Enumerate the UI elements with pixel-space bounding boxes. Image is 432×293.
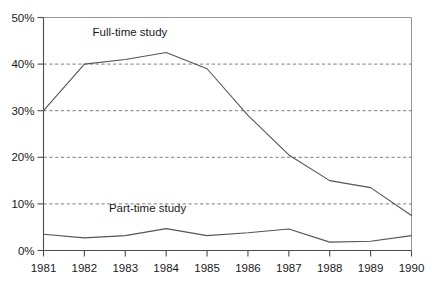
chart-frame bbox=[44, 18, 412, 251]
chart-canvas: 0%10%20%30%40%50% 1981198219831984198519… bbox=[0, 0, 432, 293]
gridlines bbox=[44, 64, 412, 204]
y-tick-label-0: 0% bbox=[18, 245, 35, 257]
y-tick-label-10: 10% bbox=[11, 198, 34, 210]
series-line-part-time-study bbox=[44, 229, 412, 243]
y-tick-label-50: 50% bbox=[11, 12, 34, 24]
series-line-full-time-study bbox=[44, 52, 412, 215]
x-tick-label-1981: 1981 bbox=[31, 262, 57, 274]
axes bbox=[44, 18, 412, 251]
x-tick-label-1986: 1986 bbox=[235, 262, 261, 274]
x-tick-label-1985: 1985 bbox=[194, 262, 220, 274]
x-tick-label-1989: 1989 bbox=[358, 262, 384, 274]
y-tick-label-30: 30% bbox=[11, 105, 34, 117]
x-tick-label-1984: 1984 bbox=[153, 262, 179, 274]
x-tick-label-1990: 1990 bbox=[399, 262, 425, 274]
y-axis-tick-labels: 0%10%20%30%40%50% bbox=[11, 12, 34, 257]
x-tick-label-1982: 1982 bbox=[72, 262, 98, 274]
y-tick-label-20: 20% bbox=[11, 151, 34, 163]
x-axis-tick-labels: 1981198219831984198519861987198819891990 bbox=[31, 262, 425, 274]
y-axis-ticks bbox=[38, 18, 44, 251]
data-series bbox=[44, 52, 412, 242]
x-axis-ticks bbox=[44, 251, 412, 257]
x-tick-label-1987: 1987 bbox=[276, 262, 302, 274]
annotation-part-time-study: Part-time study bbox=[109, 202, 187, 214]
y-tick-label-40: 40% bbox=[11, 58, 34, 70]
x-tick-label-1988: 1988 bbox=[317, 262, 343, 274]
annotation-full-time-study: Full-time study bbox=[93, 26, 168, 38]
line-chart: 0%10%20%30%40%50% 1981198219831984198519… bbox=[0, 0, 432, 293]
x-tick-label-1983: 1983 bbox=[112, 262, 138, 274]
